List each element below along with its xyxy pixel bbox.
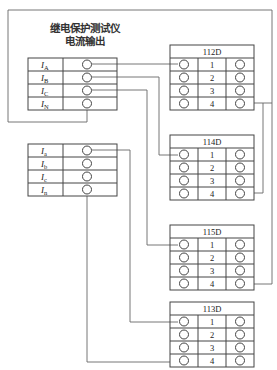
terminal-block-115D: 115D 1 2 3 4 [170,225,254,290]
terminal-number: 2 [210,330,214,340]
terminal-number: 4 [210,279,215,289]
wiring-diagram: IA IB IC IN Ia Ib Ic In [0,0,277,370]
terminal-number: 2 [210,163,214,173]
terminal-block-114D: 114D 1 2 3 4 [170,135,254,200]
block-name: 113D [203,304,222,314]
terminal-number: 4 [210,99,215,109]
block-name: 112D [203,47,222,57]
wire-Ia [92,150,178,322]
terminal-block-112D: 112D 1 2 3 4 [170,45,254,110]
svg-text:IB: IB [40,73,49,84]
svg-text:IC: IC [40,86,48,97]
terminal-number: 1 [210,317,214,327]
terminal-number: 1 [210,60,214,70]
svg-text:In: In [40,185,48,196]
svg-text:Ib: Ib [40,159,47,170]
terminal-number: 3 [210,176,214,186]
terminal-number: 2 [210,253,214,263]
wire-114D-4-return [254,103,263,193]
terminal-number: 1 [210,150,214,160]
terminal-block-113D: 113D 1 2 3 4 [170,302,254,367]
secondary-output-labels: Ia Ib Ic In [40,146,48,196]
terminal-number: 2 [210,73,214,83]
block-name: 114D [203,137,222,147]
terminal-number: 1 [210,240,214,250]
terminal-number: 4 [210,356,215,366]
wire-IN-return [8,10,272,284]
svg-text:Ia: Ia [40,146,47,157]
wire-IB [92,77,178,155]
terminal-number: 3 [210,343,214,353]
svg-text:IA: IA [40,60,49,71]
terminal-number: 4 [210,189,215,199]
tester-output-labels: IA IB IC IN [40,60,49,110]
terminal-number: 3 [210,266,214,276]
terminal-number: 3 [210,86,214,96]
wire-In [87,196,170,362]
wires [8,10,272,362]
block-name: 115D [203,227,222,237]
wire-IC [92,90,178,245]
svg-text:Ic: Ic [40,172,47,183]
svg-text:IN: IN [40,99,49,110]
